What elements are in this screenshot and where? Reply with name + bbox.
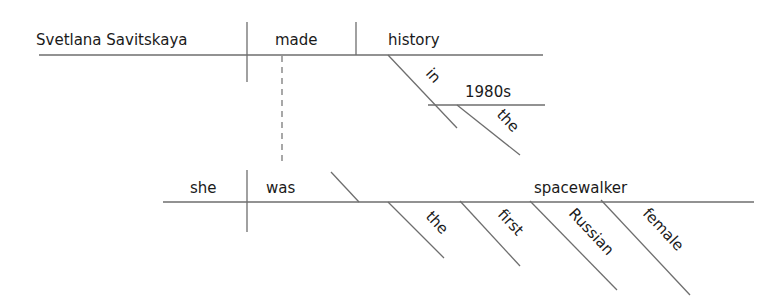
word-modifier-the: the bbox=[422, 207, 452, 237]
word-modifier-female: female bbox=[639, 204, 687, 254]
word-preposition: in bbox=[422, 64, 444, 86]
predicate-nominative-divider bbox=[331, 172, 359, 202]
preposition-diagonal bbox=[388, 55, 457, 128]
word-direct-object: history bbox=[388, 31, 440, 49]
word-predicate-nominative: spacewalker bbox=[534, 179, 628, 197]
word-sub-subject: she bbox=[190, 179, 217, 197]
word-subject: Svetlana Savitskaya bbox=[36, 31, 187, 49]
sentence-diagram: Svetlana Savitskaya made history in 1980… bbox=[0, 0, 784, 304]
word-verb: made bbox=[275, 31, 318, 49]
word-modifier-first: first bbox=[494, 205, 527, 239]
word-prep-object-modifier: the bbox=[493, 105, 523, 135]
word-sub-verb: was bbox=[266, 179, 295, 197]
word-modifier-russian: Russian bbox=[565, 204, 618, 259]
word-prep-object: 1980s bbox=[465, 83, 511, 101]
